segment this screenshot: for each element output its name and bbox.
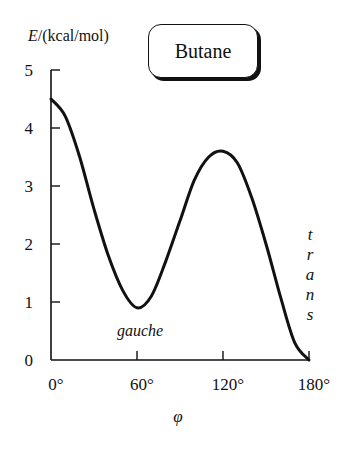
x-ticks: 0°60°120°180° [48,351,330,394]
y-tick-label: 1 [25,293,34,312]
y-axis-label: E/(kcal/mol) [27,27,109,45]
x-tick-label: 60° [130,375,154,394]
annotation-trans-letter: s [307,305,314,324]
y-axis-label-var: E [27,27,38,44]
annotation-trans: trans [306,225,315,324]
chart-title: Butane [175,40,232,63]
y-tick-label: 0 [25,351,34,370]
x-tick-label: 120° [212,375,244,394]
y-tick-label: 3 [25,177,34,196]
y-tick-label: 4 [25,119,34,138]
chart-title-box: Butane [148,24,258,78]
y-ticks: 012345 [25,61,61,370]
y-tick-label: 2 [25,235,34,254]
annotation-gauche: gauche [117,322,163,340]
annotation-trans-letter: a [306,265,315,284]
x-tick-label: 180° [298,375,330,394]
axes [51,70,309,360]
annotation-trans-letter: r [307,245,314,264]
y-tick-label: 5 [25,61,34,80]
y-axis-label-unit: /(kcal/mol) [38,27,109,45]
energy-curve [51,99,309,360]
annotation-trans-letter: t [308,225,314,244]
x-tick-label: 0° [48,375,63,394]
annotation-trans-letter: n [306,285,315,304]
x-axis-label: φ [173,407,182,426]
